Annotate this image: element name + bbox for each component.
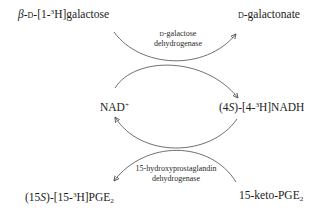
arrow-nadh-to-nad: [115, 117, 237, 148]
arrow-nad-to-nadh: [115, 65, 238, 98]
nadh-mid: )-[4-: [234, 101, 255, 113]
enzyme-top-line2: dehydrogenase: [148, 39, 208, 49]
keto-sub: 2: [300, 195, 304, 203]
node-galactonate: d-galactonate: [238, 9, 300, 21]
pge2-sub: 2: [110, 197, 114, 205]
node-nad-plus: NAD+: [100, 102, 129, 114]
keto-text: 15-keto-PGE: [239, 189, 300, 201]
enzyme-top: d-galactose dehydrogenase: [148, 29, 208, 49]
galactose-mid: -[1-: [33, 8, 50, 20]
pge2-prefix: (15: [25, 191, 40, 203]
galactonate-suffix: -galactonate: [244, 8, 300, 20]
enzyme-top-name: -galactose: [164, 29, 196, 38]
pge2-mid: )-[15-: [46, 191, 73, 203]
nadh-suffix: H]NADH: [259, 101, 304, 113]
node-nadh: (4S)-[4-3H]NADH: [219, 102, 304, 114]
nad-text: NAD: [100, 101, 125, 113]
node-keto-pge2: 15-keto-PGE2: [239, 190, 303, 202]
enzyme-bottom-line2: dehydrogenase: [126, 174, 226, 184]
enzyme-bottom: 15-hydroxyprostaglandin dehydrogenase: [126, 164, 226, 184]
enzyme-bottom-line1: 15-hydroxyprostaglandin: [126, 164, 226, 174]
node-galactose: β-d-[1-3H]galactose: [18, 9, 109, 21]
enzyme-top-line1: d-galactose: [148, 29, 208, 39]
pge2-suffix: H]PGE: [76, 191, 110, 203]
galactose-prefix: β-: [18, 8, 28, 20]
nad-sup: +: [125, 101, 129, 109]
node-pge2-labeled: (15S)-[15-3H]PGE2: [25, 192, 114, 204]
galactose-suffix: H]galactose: [54, 8, 109, 20]
nadh-prefix: (4: [219, 101, 229, 113]
